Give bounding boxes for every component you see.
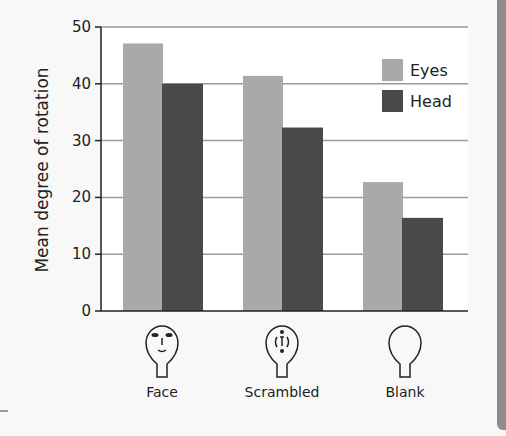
y-tick-label: 10 [72, 245, 91, 263]
bar-eyes-blank [363, 182, 403, 311]
bar-eyes-scrambled [243, 76, 283, 311]
legend-label-head: Head [410, 92, 452, 111]
y-tick-label: 30 [72, 132, 91, 150]
y-tick-label: 50 [72, 18, 91, 36]
bar-head-blank [402, 218, 443, 311]
y-tick-label: 40 [72, 75, 91, 93]
bar-eyes-face [123, 43, 163, 311]
y-tick-label: 20 [72, 188, 91, 206]
scrambled-face-stimulus-icon [266, 326, 298, 377]
legend-swatch-eyes [382, 59, 403, 81]
face-stimulus-icon [146, 326, 178, 377]
category-label-scrambled: Scrambled [245, 384, 320, 400]
bar-chart: 01020304050Mean degree of rotationEyesHe… [0, 0, 506, 436]
legend-label-eyes: Eyes [410, 61, 448, 80]
category-label-blank: Blank [385, 384, 425, 400]
legend-swatch-head [382, 90, 403, 112]
blank-head-stimulus-icon [389, 326, 421, 377]
y-axis-label: Mean degree of rotation [32, 67, 52, 272]
bar-head-scrambled [282, 128, 323, 311]
bar-head-face [162, 84, 203, 311]
y-tick-label: 0 [81, 302, 91, 320]
category-label-face: Face [146, 384, 178, 400]
